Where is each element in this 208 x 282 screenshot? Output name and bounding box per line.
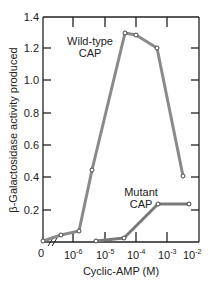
chart: 1.4 1.2 1.0 0.8 0.6 0.4 0.2 0 10-6 10-5 … <box>0 0 208 282</box>
data-point <box>41 239 45 243</box>
svg-text:Wild-type: Wild-type <box>67 35 113 47</box>
data-point <box>156 202 160 206</box>
data-point <box>155 46 159 50</box>
data-point <box>134 33 138 37</box>
data-point <box>90 168 94 172</box>
svg-text:10-2: 10-2 <box>183 248 202 261</box>
svg-text:0.8: 0.8 <box>24 107 39 119</box>
svg-text:1.0: 1.0 <box>24 74 39 86</box>
data-point <box>181 174 185 178</box>
data-point <box>187 202 191 206</box>
y-axis-ticks <box>43 48 51 210</box>
data-point <box>123 31 127 35</box>
svg-text:0.6: 0.6 <box>24 139 39 151</box>
data-point <box>59 233 63 237</box>
svg-text:CAP: CAP <box>79 47 102 59</box>
series-wild-type <box>41 31 185 243</box>
svg-text:0.2: 0.2 <box>24 204 39 216</box>
y-tick-labels: 1.4 1.2 1.0 0.8 0.6 0.4 0.2 <box>24 11 39 216</box>
svg-text:0.4: 0.4 <box>24 171 39 183</box>
svg-text:1.2: 1.2 <box>24 42 39 54</box>
x-axis-title: Cyclic-AMP (M) <box>83 265 159 277</box>
data-point <box>122 236 126 240</box>
y-axis-title: β-Galactosidase activity produced <box>7 47 19 212</box>
svg-text:CAP: CAP <box>130 198 153 210</box>
svg-text:1.4: 1.4 <box>24 11 39 23</box>
svg-text:0: 0 <box>38 247 44 259</box>
data-point <box>94 239 98 243</box>
data-point <box>77 229 81 233</box>
svg-text:Mutant: Mutant <box>124 186 158 198</box>
x-tick-labels: 0 10-6 10-5 10-4 10-3 10-2 <box>38 247 202 261</box>
svg-text:10-4: 10-4 <box>127 248 146 261</box>
svg-text:10-6: 10-6 <box>64 248 83 261</box>
svg-text:10-5: 10-5 <box>96 248 115 261</box>
y-axis-ticks-right <box>191 48 199 210</box>
annotation-mutant: Mutant CAP <box>124 186 158 210</box>
svg-text:10-3: 10-3 <box>158 248 177 261</box>
annotation-wild-type: Wild-type CAP <box>67 35 113 59</box>
